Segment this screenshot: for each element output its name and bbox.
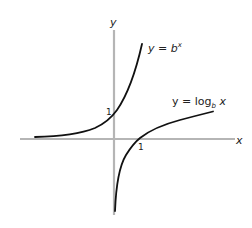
exponential-label: y = bx	[147, 41, 183, 55]
exponential-curve	[35, 44, 142, 137]
x-axis-label: x	[235, 134, 243, 147]
logarithm-curve	[115, 112, 213, 212]
graph-figure: y x 1 1 y = bx y = logb x	[0, 0, 252, 228]
y-axis-label: y	[109, 16, 117, 29]
x-tick-1: 1	[138, 142, 144, 152]
y-tick-1: 1	[106, 107, 112, 117]
logarithm-label: y = logb x	[172, 95, 226, 110]
